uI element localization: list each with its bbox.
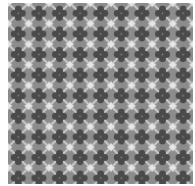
pattern-fill bbox=[8, 3, 193, 184]
tiled-pattern-graphic bbox=[8, 3, 193, 184]
pattern-texture bbox=[8, 3, 193, 184]
